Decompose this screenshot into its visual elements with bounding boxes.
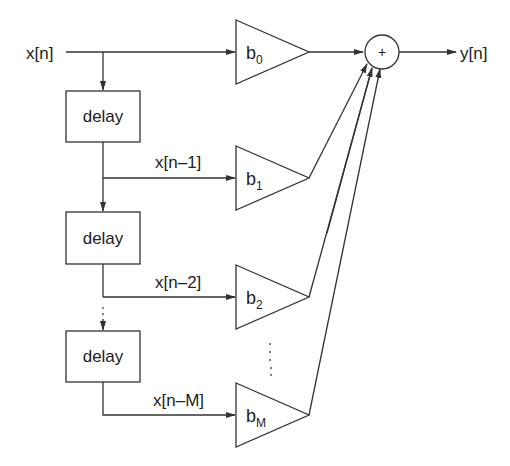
fir-filter-diagram: x[n] delay x[n–1] delay x[n–2] delay x[n… bbox=[0, 0, 510, 466]
delay-block-3: delay bbox=[66, 331, 140, 382]
bM-to-sum-arrow bbox=[309, 69, 380, 415]
tap2-signal-label: x[n–2] bbox=[155, 273, 201, 292]
gain-b1: b1 bbox=[236, 146, 309, 210]
delay-label: delay bbox=[83, 107, 124, 126]
tapM-signal-label: x[n–M] bbox=[153, 391, 204, 410]
delay-block-1: delay bbox=[66, 91, 140, 142]
ellipsis-dot bbox=[102, 307, 104, 309]
gain-bM: bM bbox=[236, 383, 309, 447]
ellipsis-dot bbox=[102, 313, 104, 315]
input-label: x[n] bbox=[26, 44, 53, 63]
delay-block-2: delay bbox=[66, 212, 140, 264]
delay-label: delay bbox=[83, 229, 124, 248]
gain-b0: b0 bbox=[236, 20, 309, 84]
output-label: y[n] bbox=[460, 44, 487, 63]
plus-icon: + bbox=[378, 44, 386, 60]
b1-to-sum-arrow bbox=[309, 64, 367, 178]
summing-junction: + bbox=[365, 35, 399, 69]
gain-ellipsis bbox=[269, 343, 272, 376]
gain-b2: b2 bbox=[236, 265, 309, 329]
tap1-signal-label: x[n–1] bbox=[155, 153, 201, 172]
delay-label: delay bbox=[83, 347, 124, 366]
